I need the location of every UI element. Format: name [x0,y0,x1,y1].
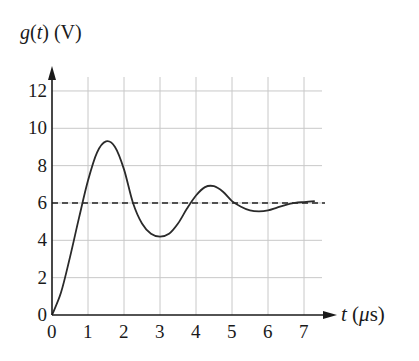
x-tick-label: 3 [155,322,165,341]
x-tick-label: 1 [83,322,93,341]
x-axis-label: t (μs) [341,304,385,325]
y-axis-arrow-icon [48,66,56,80]
x-tick-label: 6 [263,322,273,341]
x-tick-label: 0 [47,322,57,341]
y-axis-label: g(t) (V) [20,22,82,42]
y-tick-label: 6 [38,193,48,212]
y-tick-label: 12 [28,81,47,100]
x-tick-label: 5 [227,322,237,341]
x-tick-label: 7 [299,322,309,341]
x-tick-label: 2 [119,322,129,341]
g-t-curve [52,141,315,315]
y-tick-label: 4 [38,230,48,249]
y-tick-label: 2 [38,268,48,287]
x-tick-label: 4 [191,322,201,341]
y-tick-label: 8 [38,156,48,175]
x-axis [52,311,337,319]
grid-lines [52,77,322,315]
x-axis-arrow-icon [323,311,337,319]
y-tick-label: 10 [28,118,47,137]
y-tick-label: 0 [38,305,48,324]
